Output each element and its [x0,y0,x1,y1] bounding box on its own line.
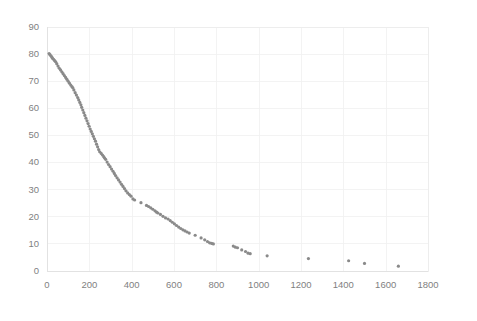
scatter-chart: 0102030405060708090 02004006008001000120… [0,0,477,321]
y-tick-label: 20 [28,211,39,222]
data-point [203,238,206,241]
data-point [347,259,350,262]
data-point [249,252,252,255]
chart-canvas: 0102030405060708090 02004006008001000120… [0,0,477,321]
y-tick-label: 60 [28,102,39,113]
x-tick-label: 1400 [333,279,354,290]
data-point [363,262,366,265]
data-point [94,140,97,143]
data-point [83,114,86,117]
data-point [139,201,142,204]
data-point [266,254,269,257]
x-tick-label: 800 [208,279,224,290]
x-tick-label: 0 [44,279,49,290]
x-tick-label: 1000 [248,279,269,290]
data-point [188,231,191,234]
data-point [212,242,215,245]
y-tick-label: 80 [28,48,39,59]
data-point [133,198,136,201]
data-point [397,265,400,268]
x-tick-label: 1800 [417,279,438,290]
data-point [307,257,310,260]
data-point [194,234,197,237]
chart-background [0,0,477,321]
y-tick-label: 70 [28,75,39,86]
data-point [199,236,202,239]
data-point [104,158,107,161]
y-tick-label: 30 [28,184,39,195]
y-tick-label: 90 [28,21,39,32]
data-point [236,246,239,249]
x-tick-label: 600 [166,279,182,290]
x-tick-label: 200 [81,279,97,290]
data-point [129,195,132,198]
y-tick-label: 50 [28,129,39,140]
y-tick-label: 40 [28,156,39,167]
x-tick-label: 1200 [290,279,311,290]
x-tick-label: 1600 [375,279,396,290]
data-point [240,248,243,251]
y-tick-label: 0 [34,265,39,276]
data-point [159,213,162,216]
y-tick-label: 10 [28,238,39,249]
x-tick-label: 400 [124,279,140,290]
